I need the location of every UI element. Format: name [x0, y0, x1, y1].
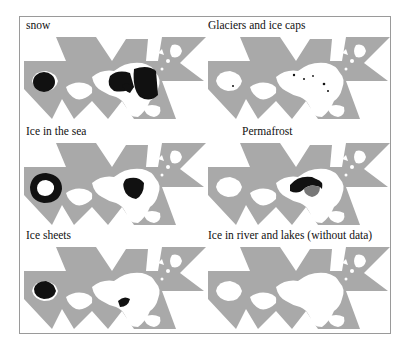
figure-frame: snow Glaciers and ice caps Ice in the se…	[19, 16, 391, 334]
panel-sea-ice: Ice in the sea	[22, 125, 208, 229]
dymaxion-map-ice-sheets	[22, 241, 208, 333]
dymaxion-map-sea-ice	[22, 137, 208, 229]
dymaxion-map-river-lake-ice	[206, 241, 392, 333]
dymaxion-map-permafrost	[206, 137, 392, 229]
dymaxion-map-snow	[22, 31, 208, 123]
panel-glaciers: Glaciers and ice caps	[206, 19, 392, 123]
panel-river-lake-ice: Ice in river and lakes (without data)	[206, 229, 392, 333]
panel-permafrost: Permafrost	[206, 125, 392, 229]
panel-ice-sheets: Ice sheets	[22, 229, 208, 333]
dymaxion-map-glaciers	[206, 31, 392, 123]
panel-snow: snow	[22, 19, 208, 123]
